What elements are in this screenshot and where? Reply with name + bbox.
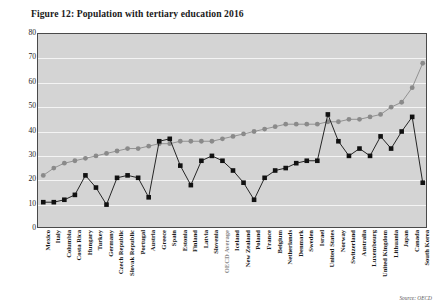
data-point — [315, 158, 320, 163]
y-tick-label-40: 40 — [28, 127, 36, 135]
data-point — [104, 202, 109, 207]
data-point — [41, 200, 46, 205]
data-point — [167, 137, 172, 142]
data-point — [125, 146, 130, 151]
data-point — [357, 146, 362, 151]
x-tick-label: Austria — [150, 230, 157, 251]
x-tick-label: Germany — [108, 230, 115, 257]
plot-area — [37, 33, 427, 228]
x-tick-label: Italy — [55, 230, 62, 243]
data-point — [336, 119, 341, 124]
data-point — [83, 173, 88, 178]
x-tick-label: Netherlands — [287, 230, 294, 264]
data-point — [115, 176, 120, 181]
x-tick-label: Estonia — [182, 230, 189, 251]
data-point — [136, 176, 141, 181]
x-tick-label: Japan — [403, 230, 410, 247]
data-point — [41, 173, 46, 178]
data-point — [62, 197, 67, 202]
y-tick-label-30: 30 — [28, 151, 36, 159]
data-point — [336, 139, 341, 144]
x-tick-label: Norway — [340, 230, 347, 252]
x-tick-label: Lithuania — [393, 230, 400, 258]
data-point — [115, 149, 120, 154]
data-point — [199, 158, 204, 163]
data-point — [357, 117, 362, 122]
data-point — [220, 136, 225, 141]
page-title: Figure 12: Population with tertiary educ… — [31, 8, 244, 19]
x-tick-label: Sweden — [308, 230, 315, 252]
x-tick-label: United States — [329, 230, 336, 268]
data-point — [199, 139, 204, 144]
x-tick-label: Israel — [319, 230, 326, 246]
x-tick-label: South Korea — [424, 230, 431, 266]
x-tick-label: Columbia — [66, 230, 73, 258]
data-point — [420, 61, 425, 66]
data-point — [220, 158, 225, 163]
x-tick-label: Finland — [192, 230, 199, 252]
x-tick-label: Belgium — [277, 230, 284, 253]
x-tick-label: Mexico — [45, 230, 52, 251]
series-1 — [41, 112, 425, 207]
data-point — [52, 200, 57, 205]
data-point — [210, 139, 215, 144]
data-point — [241, 180, 246, 185]
data-point — [231, 134, 236, 139]
data-point — [304, 122, 309, 127]
series-line — [43, 63, 422, 175]
x-tick-label: Slovenia — [213, 230, 220, 254]
data-point — [188, 139, 193, 144]
data-point — [252, 129, 257, 134]
x-tick-label: Canada — [414, 230, 421, 252]
x-tick-label: Turkey — [97, 230, 104, 250]
x-tick-label: Hungary — [87, 230, 94, 255]
data-point — [157, 139, 162, 144]
data-point — [83, 156, 88, 161]
data-point — [399, 129, 404, 134]
y-tick-label-10: 10 — [28, 200, 36, 208]
data-point — [125, 173, 130, 178]
data-point — [378, 134, 383, 139]
x-tick-label: OECD Average — [224, 230, 231, 273]
data-point — [420, 180, 425, 185]
x-tick-label: Australia — [361, 230, 368, 256]
data-point — [294, 122, 299, 127]
data-point — [389, 105, 394, 110]
y-axis-ticks: 01020304050607080 — [16, 27, 36, 234]
data-point — [146, 195, 151, 200]
data-point — [399, 100, 404, 105]
data-point — [283, 166, 288, 171]
series-line — [43, 114, 422, 204]
data-point — [262, 127, 267, 132]
data-point — [241, 132, 246, 137]
figure-container: Figure 12: Population with tertiary educ… — [0, 0, 439, 305]
data-point — [51, 166, 56, 171]
x-tick-label: Latvia — [203, 230, 210, 248]
data-point — [178, 163, 183, 168]
data-point — [347, 117, 352, 122]
data-point — [94, 185, 99, 190]
data-point — [262, 176, 267, 181]
x-tick-label: Slovak Republic — [129, 230, 136, 276]
data-point — [136, 146, 141, 151]
data-series-layer — [38, 34, 426, 227]
x-tick-label: Poland — [255, 230, 262, 250]
source-note: Source: OECD — [399, 295, 432, 301]
y-tick-label-80: 80 — [28, 29, 36, 37]
data-point — [294, 161, 299, 166]
x-tick-label: Luxembourg — [371, 230, 378, 267]
x-tick-label: France — [266, 230, 273, 250]
x-tick-label: Portugal — [140, 230, 147, 255]
data-point — [72, 158, 77, 163]
data-point — [389, 146, 394, 151]
data-point — [378, 112, 383, 117]
y-tick-label-50: 50 — [28, 102, 36, 110]
y-tick-label-0: 0 — [32, 224, 36, 232]
data-point — [104, 151, 109, 156]
data-point — [368, 154, 373, 159]
x-tick-label: Spain — [171, 230, 178, 246]
data-point — [231, 168, 236, 173]
x-tick-label: Denmark — [298, 230, 305, 257]
x-tick-label: Czech Republic — [118, 230, 125, 274]
x-tick-label: United Kingdom — [382, 230, 389, 277]
